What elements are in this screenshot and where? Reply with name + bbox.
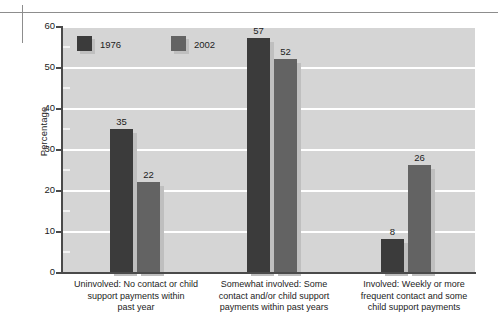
y-tick-label-60: 60 — [29, 21, 55, 31]
y-tick-mark-30 — [56, 149, 61, 151]
bar-value-label: 35 — [101, 116, 142, 127]
minor-gridline-55 — [63, 46, 70, 48]
category-label-somewhat-involved: Somewhat involved: Some contact and/or c… — [198, 279, 350, 314]
y-tick-mark-60 — [56, 26, 61, 28]
bar-body — [247, 38, 270, 272]
y-tick-mark-50 — [56, 67, 61, 69]
bar-1976-somewhat-involved[interactable]: 57 — [247, 38, 270, 272]
crop-mark-horizontal — [0, 12, 498, 13]
bar-1976-uninvolved[interactable]: 35 — [110, 129, 133, 273]
x-axis-line — [61, 272, 476, 274]
bar-value-label: 22 — [128, 169, 169, 180]
category-line: contact and/or child support — [198, 291, 350, 303]
bar-body — [408, 165, 431, 272]
bar-body — [381, 239, 404, 272]
category-line: Uninvolved: No contact or child — [60, 279, 212, 291]
y-axis-title: Percentage — [38, 87, 49, 177]
bar-value-label: 26 — [399, 152, 440, 163]
y-axis-line — [61, 26, 63, 273]
minor-gridline-5 — [63, 251, 70, 253]
bar-2002-uninvolved[interactable]: 22 — [137, 182, 160, 272]
legend-label: 2002 — [194, 39, 215, 50]
minor-gridline-25 — [63, 169, 70, 171]
legend-swatch-icon — [171, 36, 186, 51]
legend-label: 1976 — [100, 39, 121, 50]
bar-value-label: 57 — [238, 25, 279, 36]
bar-body — [274, 59, 297, 272]
category-label-uninvolved: Uninvolved: No contact or child support … — [60, 279, 212, 314]
bar-chart-figure: 35 22 57 52 8 26 — [0, 0, 498, 335]
category-line: support payments within — [60, 291, 212, 303]
y-tick-mark-10 — [56, 231, 61, 233]
y-tick-label-20: 20 — [29, 185, 55, 195]
y-tick-label-10: 10 — [29, 226, 55, 236]
category-line: child support payments — [338, 302, 490, 314]
category-line: past year — [60, 302, 212, 314]
bar-2002-somewhat-involved[interactable]: 52 — [274, 59, 297, 272]
category-label-involved: Involved: Weekly or more frequent contac… — [338, 279, 490, 314]
crop-mark-vertical — [22, 5, 23, 43]
plot-area: 35 22 57 52 8 26 — [63, 26, 475, 272]
category-line: frequent contact and some — [338, 291, 490, 303]
category-line: payments within past years — [198, 302, 350, 314]
y-tick-label-50: 50 — [29, 62, 55, 72]
bar-value-label: 52 — [265, 46, 306, 57]
y-tick-label-0: 0 — [29, 267, 55, 277]
minor-gridline-35 — [63, 128, 70, 130]
bar-1976-involved[interactable]: 8 — [381, 239, 404, 272]
y-tick-mark-40 — [56, 108, 61, 110]
legend-swatch-icon — [77, 36, 92, 51]
bar-value-label: 8 — [372, 226, 413, 237]
category-line: Involved: Weekly or more — [338, 279, 490, 291]
y-tick-mark-0 — [56, 272, 61, 274]
bar-2002-involved[interactable]: 26 — [408, 165, 431, 272]
minor-gridline-15 — [63, 210, 70, 212]
category-line: Somewhat involved: Some — [198, 279, 350, 291]
minor-gridline-45 — [63, 87, 70, 89]
bar-body — [137, 182, 160, 272]
y-tick-mark-20 — [56, 190, 61, 192]
bar-body — [110, 129, 133, 273]
